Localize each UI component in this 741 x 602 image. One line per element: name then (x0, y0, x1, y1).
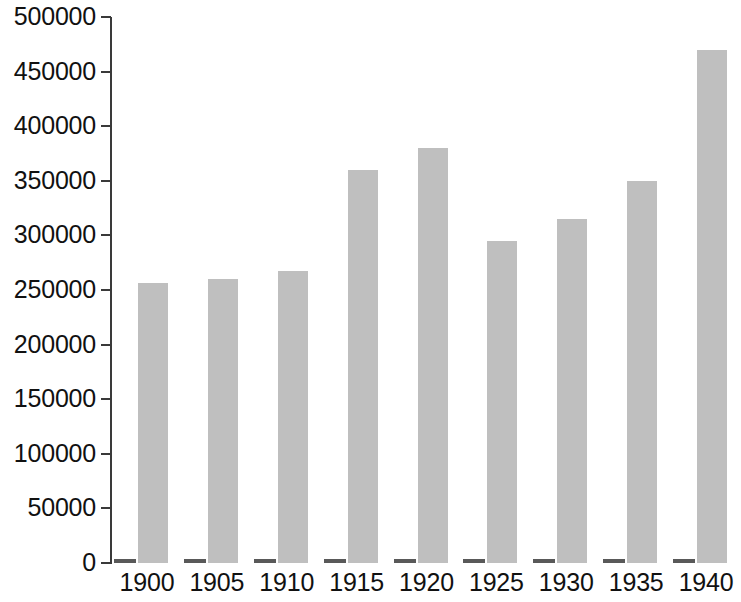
bar (487, 241, 517, 563)
y-axis-tick-label: 500000 (0, 4, 96, 29)
bar (603, 559, 625, 563)
y-axis-tick-label: 350000 (0, 168, 96, 193)
bar-group (322, 17, 392, 563)
bar-group (671, 17, 741, 563)
bar (114, 559, 136, 563)
y-axis-tick-mark (101, 562, 111, 564)
y-axis-tick-mark (101, 125, 111, 127)
plot-area (112, 17, 741, 563)
bar-group (601, 17, 671, 563)
bar-group (182, 17, 252, 563)
y-axis-tick-mark (101, 180, 111, 182)
bar (394, 559, 416, 563)
bar (627, 181, 657, 563)
bar (184, 559, 206, 563)
bar (418, 148, 448, 563)
y-axis-tick-mark (101, 344, 111, 346)
bar-group (392, 17, 462, 563)
y-axis-tick-mark (101, 71, 111, 73)
y-axis-tick-label: 50000 (0, 495, 96, 520)
bar (697, 50, 727, 563)
x-axis-tick-label: 1940 (661, 566, 741, 598)
y-axis-tick-mark (101, 507, 111, 509)
y-axis-tick-mark (101, 398, 111, 400)
bar (254, 559, 276, 563)
bar (138, 283, 168, 563)
bar-group (112, 17, 182, 563)
y-axis-tick-label: 400000 (0, 113, 96, 138)
bar-chart: 5000004500004000003500003000002500002000… (0, 0, 741, 602)
bar (533, 559, 555, 563)
y-axis-tick-mark (101, 16, 111, 18)
y-axis-tick-mark (101, 289, 111, 291)
bar (557, 219, 587, 563)
bar-group (531, 17, 601, 563)
x-axis: 190019051910191519201925193019351940 (112, 566, 741, 602)
y-axis-tick-label: 250000 (0, 277, 96, 302)
y-axis-tick-label: 150000 (0, 386, 96, 411)
bar (348, 170, 378, 563)
bar (208, 279, 238, 563)
y-axis-tick-mark (101, 453, 111, 455)
y-axis-tick-label: 450000 (0, 59, 96, 84)
y-axis-tick-label: 100000 (0, 441, 96, 466)
bar (673, 559, 695, 563)
bar (278, 271, 308, 563)
y-axis-tick-label: 0 (0, 550, 96, 575)
y-axis-tick-label: 300000 (0, 222, 96, 247)
bar (324, 559, 346, 563)
y-axis-tick-mark (101, 234, 111, 236)
y-axis: 5000004500004000003500003000002500002000… (0, 0, 96, 602)
bar-group (461, 17, 531, 563)
y-axis-tick-label: 200000 (0, 332, 96, 357)
bar (463, 559, 485, 563)
bar-group (252, 17, 322, 563)
